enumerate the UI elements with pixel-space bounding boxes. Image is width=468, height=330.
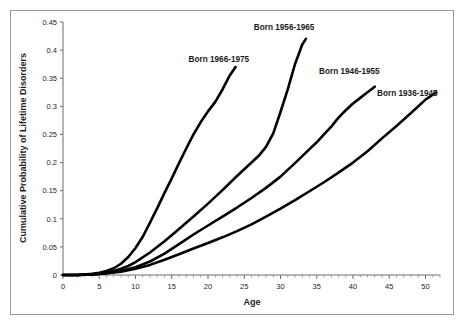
y-tick-label: 0.15 — [42, 186, 57, 195]
data-curve — [63, 67, 236, 275]
x-tick-label: 40 — [349, 282, 357, 291]
x-tick-label: 35 — [313, 282, 321, 291]
x-tick-label: 25 — [240, 282, 248, 291]
data-series-group — [63, 39, 436, 275]
x-tick-label: 0 — [61, 282, 65, 291]
x-tick-label: 5 — [97, 282, 101, 291]
x-axis: 05101520253035404550 — [61, 275, 440, 291]
y-tick-label: 0 — [53, 271, 57, 280]
x-tick-label: 45 — [385, 282, 393, 291]
series-label: Born 1956-1965 — [254, 23, 315, 32]
x-tick-label: 15 — [168, 282, 176, 291]
y-axis: 00.050.10.150.20.250.30.350.40.45 — [42, 18, 63, 280]
y-tick-label: 0.1 — [47, 215, 57, 224]
y-tick-label: 0.4 — [47, 46, 57, 55]
y-tick-label: 0.25 — [42, 130, 57, 139]
x-tick-label: 20 — [204, 282, 212, 291]
line-chart: 00.050.10.150.20.250.30.350.40.45 051015… — [0, 0, 468, 330]
y-tick-label: 0.3 — [47, 102, 57, 111]
series-labels-group: Born 1966-1975Born 1956-1965Born 1946-19… — [189, 23, 438, 98]
x-axis-title: Age — [243, 297, 260, 307]
y-tick-label: 0.45 — [42, 18, 57, 27]
y-tick-label: 0.35 — [42, 74, 57, 83]
x-tick-label: 30 — [276, 282, 284, 291]
data-curve — [63, 92, 436, 275]
x-tick-label: 50 — [421, 282, 429, 291]
chart-figure: 00.050.10.150.20.250.30.350.40.45 051015… — [0, 0, 468, 330]
series-label: Born 1966-1975 — [189, 55, 250, 64]
y-tick-label: 0.05 — [42, 243, 57, 252]
y-axis-title: Cumulative Probability of Lifetime Disor… — [18, 53, 28, 243]
x-tick-label: 10 — [131, 282, 139, 291]
series-label: Born 1936-1945 — [377, 89, 438, 98]
y-tick-label: 0.2 — [47, 158, 57, 167]
series-label: Born 1946-1955 — [319, 67, 380, 76]
